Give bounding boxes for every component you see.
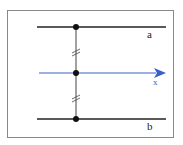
point-icon: [73, 116, 79, 122]
label-x: x: [153, 77, 158, 87]
label-a: a: [147, 28, 152, 40]
point-icon: [73, 70, 79, 76]
label-b: b: [147, 120, 153, 132]
point-icon: [73, 24, 79, 30]
diagram-canvas: [0, 0, 183, 145]
